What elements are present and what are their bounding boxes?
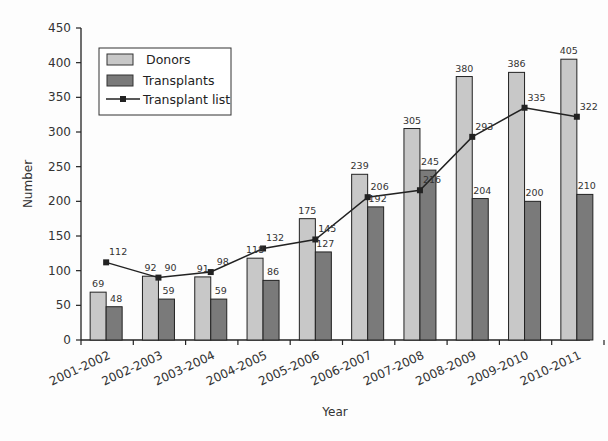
data-label-transplant-list: 206 <box>371 181 389 192</box>
bar-transplants <box>420 170 436 340</box>
bar-transplants <box>472 199 488 340</box>
y-axis: 050100150200250300350400450 <box>48 21 81 347</box>
bar-transplants <box>577 194 593 340</box>
y-tick-label: 100 <box>48 264 71 278</box>
legend-label-transplant-list: Transplant list <box>142 92 230 107</box>
data-label-donors: 386 <box>507 58 525 69</box>
legend: Donors Transplants Transplant list <box>99 48 231 115</box>
data-label-transplants: 204 <box>473 185 491 196</box>
legend-swatch-transplants <box>107 75 133 86</box>
bar-line-chart: 050100150200250300350400450 2001-2002200… <box>0 0 608 441</box>
data-label-donors: 92 <box>144 262 156 273</box>
line-path <box>106 108 577 278</box>
bar-transplants <box>211 299 227 340</box>
data-label-donors: 405 <box>560 45 578 56</box>
data-label-donors: 305 <box>403 115 421 126</box>
data-label-transplant-list: 132 <box>266 232 284 243</box>
data-label-donors: 175 <box>298 205 316 216</box>
y-tick-label: 200 <box>48 194 71 208</box>
bar-donors <box>142 276 158 340</box>
bar-donors <box>247 258 263 340</box>
data-label-donors: 118 <box>246 244 264 255</box>
line-marker <box>155 275 161 281</box>
data-label-transplant-list: 335 <box>527 92 545 103</box>
bar-transplants <box>315 252 331 340</box>
y-tick-label: 300 <box>48 125 71 139</box>
data-label-transplants: 245 <box>421 156 439 167</box>
x-axis: 2001-20022002-20032003-20042004-20052005… <box>47 340 604 388</box>
y-tick-label: 0 <box>63 333 71 347</box>
bar-donors <box>456 77 472 340</box>
data-label-transplant-list: 90 <box>164 262 176 273</box>
x-axis-title: Year <box>321 405 347 419</box>
bar-transplants <box>106 307 122 340</box>
data-label-transplant-list: 145 <box>318 223 336 234</box>
y-tick-label: 150 <box>48 229 71 243</box>
data-label-transplants: 59 <box>215 285 227 296</box>
data-label-transplants: 59 <box>162 285 174 296</box>
line-marker <box>103 259 109 265</box>
bar-transplants <box>525 201 541 340</box>
data-label-donors: 380 <box>455 63 473 74</box>
data-label-transplants: 200 <box>525 187 543 198</box>
data-label-transplant-list: 322 <box>580 101 598 112</box>
data-label-transplants: 127 <box>316 238 334 249</box>
legend-swatch-donors <box>107 54 133 65</box>
y-tick-label: 50 <box>56 298 71 312</box>
data-label-transplants: 210 <box>578 180 596 191</box>
line-marker <box>574 114 580 120</box>
data-label-transplant-list: 293 <box>475 121 493 132</box>
y-axis-title: Number <box>21 160 35 208</box>
data-label-transplant-list: 216 <box>423 174 441 185</box>
data-label-transplant-list: 112 <box>109 246 127 257</box>
legend-marker-icon <box>120 96 126 102</box>
data-label-donors: 69 <box>92 278 104 289</box>
legend-label-donors: Donors <box>146 52 191 67</box>
bar-donors <box>195 277 211 340</box>
legend-label-transplants: Transplants <box>142 73 214 88</box>
data-label-transplants: 48 <box>110 293 122 304</box>
bar-donors <box>404 129 420 340</box>
line-marker <box>417 187 423 193</box>
data-label-transplant-list: 98 <box>217 256 229 267</box>
data-label-donors: 91 <box>197 263 209 274</box>
bar-transplants <box>263 280 279 340</box>
y-tick-label: 350 <box>48 90 71 104</box>
data-label-transplants: 192 <box>369 193 387 204</box>
y-tick-label: 400 <box>48 56 71 70</box>
data-label-transplants: 86 <box>267 266 279 277</box>
bar-donors <box>90 292 106 340</box>
y-tick-label: 250 <box>48 160 71 174</box>
y-tick-label: 450 <box>48 21 71 35</box>
line-marker <box>469 134 475 140</box>
bar-donors <box>561 59 577 340</box>
bar-transplants <box>368 207 384 340</box>
bar-transplants <box>158 299 174 340</box>
line-marker <box>522 105 528 111</box>
data-label-donors: 239 <box>351 160 369 171</box>
